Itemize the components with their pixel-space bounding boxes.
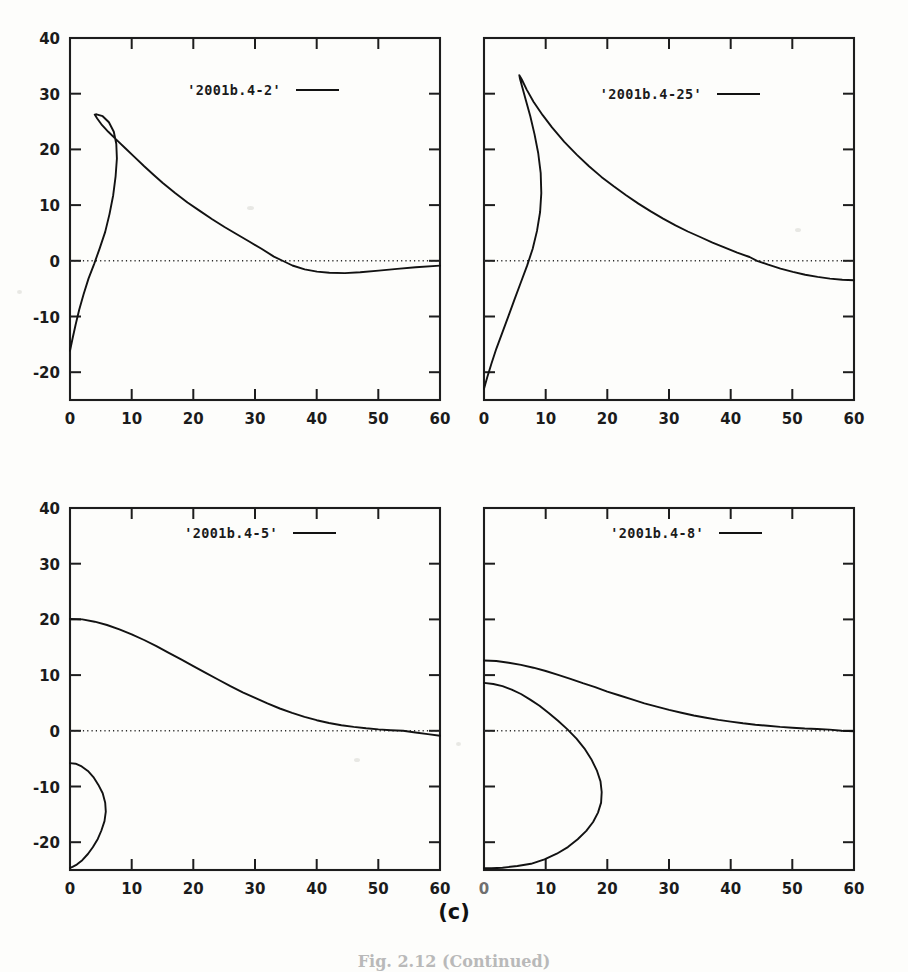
legend-bottom-right: '2001b.4-8' <box>610 525 762 541</box>
y-axis-ticks <box>484 94 854 373</box>
x-tick-label: 50 <box>782 880 803 898</box>
y-tick-labels: 40 30 20 10 0 -10 -20 <box>33 30 60 382</box>
x-tick-label: 40 <box>720 880 741 898</box>
y-tick-label: 40 <box>39 500 60 518</box>
x-axis-ticks <box>70 508 440 870</box>
y-tick-label: 20 <box>39 141 60 159</box>
x-tick-label: 0 <box>479 880 489 898</box>
y-tick-label: 30 <box>39 556 60 574</box>
x-tick-labels: 0 10 20 30 40 50 60 <box>65 410 451 428</box>
figure-page: '2001b.4-2' 40 30 20 10 0 -10 -20 0 10 2… <box>0 0 908 972</box>
x-tick-labels: 0 10 20 30 40 50 60 <box>479 410 865 428</box>
x-tick-label: 60 <box>844 880 865 898</box>
y-tick-label: 20 <box>39 611 60 629</box>
scan-speck <box>354 758 360 762</box>
scan-speck <box>795 228 801 232</box>
legend-top-right: '2001b.4-25' <box>600 86 760 102</box>
x-tick-label: 60 <box>430 410 451 428</box>
data-curve-series-1 <box>484 683 602 868</box>
y-tick-label: 10 <box>39 667 60 685</box>
x-tick-label: 20 <box>597 410 618 428</box>
x-tick-label: 30 <box>245 410 266 428</box>
y-tick-label: -10 <box>33 309 60 327</box>
legend-label: '2001b.4-5' <box>184 525 278 541</box>
chart-panel-top-right: '2001b.4-25' 0 10 20 30 40 50 60 <box>454 20 908 460</box>
y-tick-label: 30 <box>39 86 60 104</box>
y-tick-label: -20 <box>33 364 60 382</box>
scan-speck <box>247 206 254 210</box>
x-tick-label: 50 <box>368 410 389 428</box>
x-tick-label: 60 <box>430 880 451 898</box>
y-tick-labels: 40 30 20 10 0 -10 -20 <box>33 500 60 852</box>
plot-frame <box>484 508 854 870</box>
chart-panel-top-left: '2001b.4-2' 40 30 20 10 0 -10 -20 0 10 2… <box>0 20 454 460</box>
scan-speck <box>17 290 22 294</box>
x-tick-label: 0 <box>479 410 489 428</box>
legend-label: '2001b.4-25' <box>600 86 702 102</box>
chart-svg-bottom-right: '2001b.4-8' 0 10 20 30 40 50 60 <box>454 490 908 910</box>
x-tick-label: 20 <box>597 880 618 898</box>
x-tick-label: 0 <box>65 410 75 428</box>
x-tick-label: 20 <box>183 880 204 898</box>
x-tick-label: 30 <box>659 880 680 898</box>
y-tick-label: -10 <box>33 779 60 797</box>
chart-svg-top-left: '2001b.4-2' 40 30 20 10 0 -10 -20 0 10 2… <box>0 20 454 460</box>
subfigure-label: (c) <box>0 900 908 924</box>
x-tick-label: 40 <box>306 880 327 898</box>
x-axis-ticks <box>484 508 854 870</box>
y-tick-label: 10 <box>39 197 60 215</box>
x-tick-label: 0 <box>65 880 75 898</box>
y-axis-ticks <box>484 564 854 843</box>
chart-svg-bottom-left: '2001b.4-5' 40 30 20 10 0 -10 -20 0 10 2… <box>0 490 454 910</box>
data-curve-series-0 <box>484 661 854 732</box>
figure-caption: Fig. 2.12 (Continued) <box>0 952 908 972</box>
x-tick-label: 10 <box>121 880 142 898</box>
legend-label: '2001b.4-8' <box>610 525 704 541</box>
x-tick-label: 10 <box>535 410 556 428</box>
y-tick-label: 0 <box>50 723 60 741</box>
chart-panel-bottom-right: '2001b.4-8' 0 10 20 30 40 50 60 <box>454 490 908 910</box>
legend-bottom-left: '2001b.4-5' <box>184 525 336 541</box>
x-tick-label: 10 <box>535 880 556 898</box>
y-tick-label: -20 <box>33 834 60 852</box>
x-tick-label: 60 <box>844 410 865 428</box>
chart-svg-top-right: '2001b.4-25' 0 10 20 30 40 50 60 <box>454 20 908 460</box>
x-tick-label: 50 <box>782 410 803 428</box>
x-tick-labels: 0 10 20 30 40 50 60 <box>479 880 865 898</box>
x-tick-label: 40 <box>306 410 327 428</box>
y-tick-label: 0 <box>50 253 60 271</box>
scan-speck <box>456 742 461 746</box>
y-tick-label: 40 <box>39 30 60 48</box>
plot-frame <box>70 508 440 870</box>
legend-label: '2001b.4-2' <box>187 82 281 98</box>
x-tick-label: 10 <box>121 410 142 428</box>
data-curve-series-1 <box>70 763 106 868</box>
legend-top-left: '2001b.4-2' <box>187 82 339 98</box>
x-tick-label: 50 <box>368 880 389 898</box>
chart-panel-bottom-left: '2001b.4-5' 40 30 20 10 0 -10 -20 0 10 2… <box>0 490 454 910</box>
y-axis-ticks <box>70 508 440 842</box>
x-tick-label: 40 <box>720 410 741 428</box>
x-tick-label: 20 <box>183 410 204 428</box>
data-curve-series-0 <box>70 619 440 736</box>
x-tick-label: 30 <box>659 410 680 428</box>
data-curve-series-0 <box>70 114 440 351</box>
x-tick-labels: 0 10 20 30 40 50 60 <box>65 880 451 898</box>
x-tick-label: 30 <box>245 880 266 898</box>
